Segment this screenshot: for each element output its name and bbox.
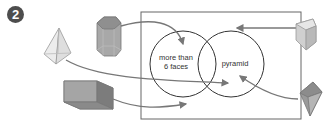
rectangular-prism-icon xyxy=(64,81,113,109)
label-line-2: 6 faces xyxy=(164,62,188,71)
square-pyramid-icon xyxy=(44,28,71,64)
label-more-than-6-faces: more than 6 faces xyxy=(153,53,199,71)
step-number-badge: 2 xyxy=(7,6,24,23)
arrow-rectangular-prism xyxy=(113,99,186,107)
arrow-square-pyramid xyxy=(66,60,228,83)
label-line-1: more than xyxy=(159,53,193,62)
triangular-prism-icon xyxy=(296,19,316,50)
hexagonal-prism-icon xyxy=(97,17,121,56)
label-pyramid: pyramid xyxy=(215,59,255,68)
triangular-pyramid-icon xyxy=(300,82,322,116)
venn-diagram-figure: 2 more than 6 faces pyramid xyxy=(0,0,332,132)
arrow-triangular-pyramid xyxy=(240,76,298,99)
arrow-hexagonal-prism xyxy=(121,22,183,44)
